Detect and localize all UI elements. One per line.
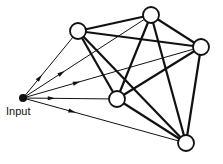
input-edge-A <box>23 31 78 98</box>
node-D <box>109 91 125 107</box>
arrow-icon <box>73 82 81 86</box>
edge-B-D <box>117 15 151 99</box>
edge-C-D <box>117 47 201 99</box>
node-A <box>70 23 86 39</box>
input-label: Input <box>6 105 30 117</box>
input-edge-E <box>23 98 186 143</box>
input-edge-D <box>23 98 117 99</box>
network-diagram <box>0 0 223 164</box>
node-E <box>178 135 194 151</box>
arrow-icon <box>57 71 64 77</box>
input-node <box>19 94 27 102</box>
node-B <box>143 7 159 23</box>
recurrent-edges <box>78 15 201 143</box>
arrow-icon <box>48 96 55 100</box>
node-C <box>193 39 209 55</box>
edge-A-B <box>78 15 151 31</box>
input-edges <box>23 15 201 143</box>
edge-C-E <box>186 47 201 143</box>
arrow-icon <box>68 109 76 113</box>
